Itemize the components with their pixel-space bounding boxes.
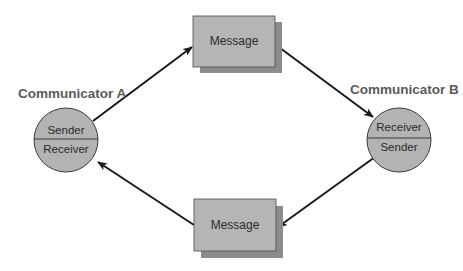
communicator-a: Communicator A Sender Receiver bbox=[18, 86, 127, 172]
communicator-b: Communicator B Receiver Sender bbox=[350, 82, 459, 172]
arrow-b-to-bottom-message bbox=[278, 157, 375, 227]
communicator-b-top-label: Receiver bbox=[376, 121, 422, 133]
communicator-a-top-label: Sender bbox=[47, 124, 84, 136]
communication-diagram: Message Message Communicator A Sender Re… bbox=[0, 0, 463, 271]
message-box-top: Message bbox=[193, 16, 282, 73]
arrow-a-to-top-message bbox=[93, 47, 192, 121]
message-box-bottom: Message bbox=[194, 199, 283, 258]
communicator-b-bottom-label: Sender bbox=[380, 141, 417, 153]
communicator-a-bottom-label: Receiver bbox=[43, 143, 89, 155]
message-label: Message bbox=[210, 34, 259, 48]
message-label: Message bbox=[211, 218, 260, 232]
communicator-b-title: Communicator B bbox=[350, 82, 459, 97]
communicator-a-title: Communicator A bbox=[18, 86, 127, 101]
communicator-a-node bbox=[34, 108, 98, 172]
communicator-b-node bbox=[367, 108, 431, 172]
arrow-bottom-message-to-a bbox=[98, 162, 194, 225]
arrow-top-message-to-b bbox=[276, 45, 373, 117]
